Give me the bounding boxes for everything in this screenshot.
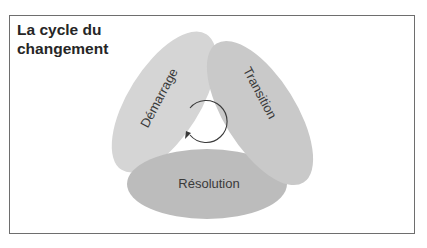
change-cycle-diagram: Démarrage Transition Résolution (0, 0, 427, 248)
phase-resolution-label: Résolution (178, 176, 239, 191)
